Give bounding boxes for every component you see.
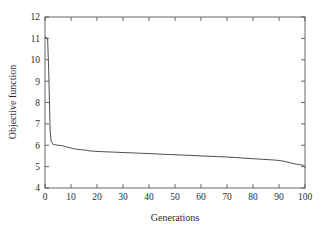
x-tick-label: 60 <box>196 192 206 202</box>
x-tick-label: 70 <box>222 192 232 202</box>
y-tick-label: 8 <box>35 98 40 108</box>
objective-function-line-chart: 0102030405060708090100 456789101112 Gene… <box>0 0 323 237</box>
x-tick-label: 20 <box>92 192 102 202</box>
x-tick-label: 0 <box>43 192 48 202</box>
x-axis-title: Generations <box>151 212 199 223</box>
y-tick-label: 7 <box>35 119 40 129</box>
y-axis-title: Objective function <box>7 65 18 140</box>
x-tick-label: 10 <box>66 192 76 202</box>
x-tick-label: 100 <box>298 192 313 202</box>
y-tick-label: 10 <box>31 55 41 65</box>
y-tick-label: 6 <box>35 141 40 151</box>
x-tick-label: 40 <box>144 192 154 202</box>
y-tick-label: 12 <box>31 12 41 22</box>
y-tick-label: 11 <box>31 34 40 44</box>
x-tick-label: 50 <box>170 192 180 202</box>
y-tick-label: 9 <box>35 77 40 87</box>
x-tick-label: 30 <box>118 192 128 202</box>
x-tick-label: 80 <box>248 192 258 202</box>
x-tick-label: 90 <box>274 192 284 202</box>
chart-figure: 0102030405060708090100 456789101112 Gene… <box>0 0 323 237</box>
y-tick-label: 4 <box>35 183 40 193</box>
y-tick-label: 5 <box>35 162 40 172</box>
